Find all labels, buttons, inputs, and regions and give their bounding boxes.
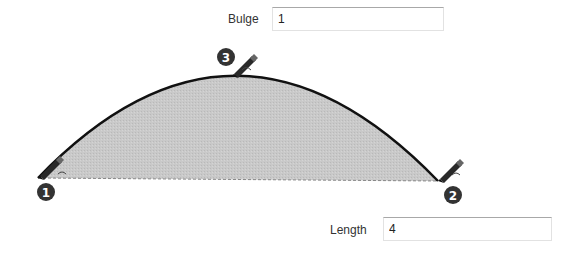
point-badge-3: 3 [217,48,235,66]
svg-text:2: 2 [449,189,457,203]
point-badge-2: 2 [444,186,462,204]
svg-text:1: 1 [42,186,50,200]
pencil-icon [438,159,464,183]
point-badge-1: 1 [37,183,55,201]
svg-text:3: 3 [222,51,230,65]
arc-drawing: 1 2 3 [0,0,570,253]
pencil-icon [232,54,258,78]
